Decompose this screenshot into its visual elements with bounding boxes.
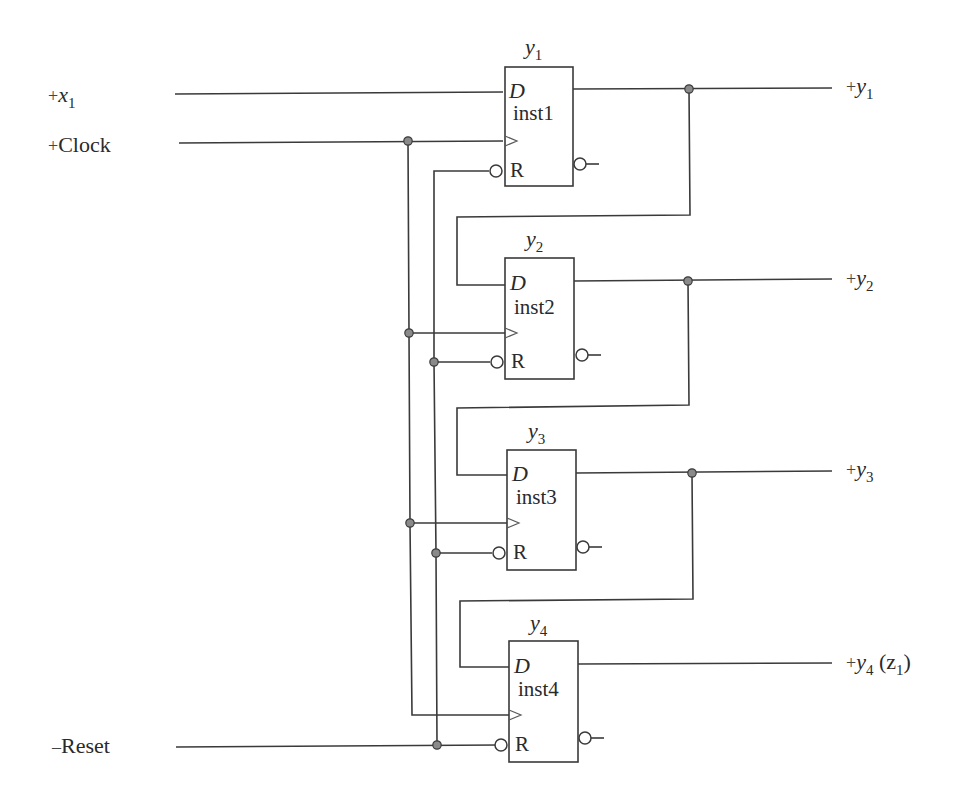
junction-dot bbox=[430, 358, 438, 366]
clock-wire bbox=[179, 141, 503, 143]
y1-output-wire bbox=[573, 88, 832, 89]
input-label-reset: –Reset bbox=[52, 735, 110, 757]
instance-label: inst2 bbox=[514, 297, 555, 318]
instance-label: inst1 bbox=[513, 103, 554, 124]
instance-label: inst3 bbox=[516, 487, 557, 508]
output-label-y4-z1: +y4 (z1) bbox=[846, 651, 911, 673]
flipflop-title-y4: y4 bbox=[530, 612, 547, 634]
d-pin-label: D bbox=[510, 272, 526, 294]
junction-dot bbox=[404, 137, 412, 145]
d-pin-label: D bbox=[512, 463, 528, 485]
reset-bus bbox=[434, 171, 489, 745]
r-pin-label: R bbox=[515, 734, 529, 755]
junction-dot bbox=[432, 549, 440, 557]
r-pin-label: R bbox=[513, 542, 527, 563]
junction-dot bbox=[688, 469, 696, 477]
flipflop-title-y2: y2 bbox=[526, 228, 543, 250]
r-pin-label: R bbox=[511, 351, 525, 372]
d-pin-label: D bbox=[514, 655, 530, 677]
x1-wire bbox=[175, 92, 503, 94]
flipflop-inst4 bbox=[495, 641, 604, 762]
junction-dot bbox=[433, 741, 441, 749]
clock-bus bbox=[408, 141, 509, 715]
junction-dot bbox=[684, 277, 692, 285]
output-label-y3: +y3 bbox=[846, 458, 873, 480]
flipflop-inst3 bbox=[493, 450, 602, 570]
y4-output-wire bbox=[578, 663, 832, 664]
output-label-y2: +y2 bbox=[846, 267, 873, 289]
flipflop-inst1 bbox=[490, 67, 599, 186]
circuit-schematic bbox=[0, 0, 975, 798]
y3-output-wire bbox=[576, 471, 832, 473]
y2-output-wire bbox=[574, 279, 832, 281]
output-label-y1: +y1 bbox=[846, 75, 873, 97]
input-label-clock: +Clock bbox=[48, 134, 111, 156]
instance-label: inst4 bbox=[518, 679, 559, 700]
junction-dot bbox=[685, 85, 693, 93]
flipflop-title-y3: y3 bbox=[528, 420, 545, 442]
junction-dot bbox=[405, 329, 413, 337]
junction-dot bbox=[406, 519, 414, 527]
reset-wire bbox=[176, 745, 499, 747]
r-pin-label: R bbox=[510, 160, 524, 181]
flipflop-title-y1: y1 bbox=[525, 36, 542, 58]
d-pin-label: D bbox=[509, 80, 525, 102]
input-label-x1: +x1 bbox=[48, 84, 75, 106]
